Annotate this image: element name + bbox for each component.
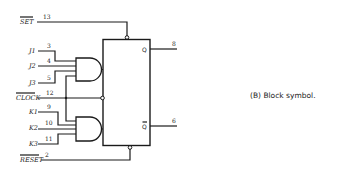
set-inversion-bubble-icon bbox=[125, 36, 129, 40]
k3-input: K3 11 bbox=[28, 134, 76, 148]
clock-pin-number: 12 bbox=[46, 89, 54, 96]
j1-wire bbox=[38, 51, 76, 61]
j2-label: J2 bbox=[27, 62, 36, 70]
k1-pin-number: 9 bbox=[47, 103, 51, 110]
k1-label: K1 bbox=[28, 108, 38, 116]
clock-inversion-bubble-icon bbox=[101, 96, 105, 100]
j2-input: J2 4 bbox=[27, 57, 76, 70]
q-label: Q bbox=[142, 46, 147, 53]
j1-label: J1 bbox=[27, 47, 36, 55]
k1-wire bbox=[38, 112, 76, 125]
j2-pin-number: 4 bbox=[47, 57, 51, 64]
q-pin-number: 8 bbox=[172, 40, 176, 47]
clock-input: CLOCK 12 bbox=[16, 89, 104, 102]
k2-label: K2 bbox=[28, 124, 38, 132]
k3-pin-number: 11 bbox=[45, 135, 53, 142]
reset-label: RESET bbox=[19, 156, 44, 164]
j1-pin-number: 3 bbox=[47, 42, 51, 49]
and-gate-k-icon bbox=[76, 117, 102, 141]
reset-pin-number: 2 bbox=[45, 151, 49, 158]
set-pin-number: 13 bbox=[43, 13, 51, 20]
jk-flip-flop-diagram: SET 13 Q 8 Q 6 J1 3 J2 4 J3 5 bbox=[0, 0, 339, 176]
j3-wire bbox=[38, 71, 76, 83]
clock-junction-dot bbox=[65, 97, 67, 99]
k2-pin-number: 10 bbox=[45, 119, 53, 126]
figure-caption: (B) Block symbol. bbox=[250, 91, 316, 100]
reset-wire bbox=[41, 149, 130, 160]
q-bar-pin-number: 6 bbox=[172, 117, 176, 124]
j1-input: J1 3 bbox=[27, 42, 76, 61]
j3-pin-number: 5 bbox=[47, 74, 51, 81]
reset-inversion-bubble-icon bbox=[128, 146, 132, 150]
k3-label: K3 bbox=[28, 140, 38, 148]
j3-label: J3 bbox=[27, 79, 36, 87]
set-label: SET bbox=[20, 18, 34, 26]
k3-wire bbox=[38, 134, 76, 144]
set-wire bbox=[37, 22, 127, 36]
reset-input: RESET 2 bbox=[19, 146, 132, 164]
and-gate-j-icon bbox=[76, 58, 102, 81]
q-bar-label: Q bbox=[142, 123, 147, 130]
clock-label: CLOCK bbox=[16, 94, 42, 102]
j3-input: J3 5 bbox=[27, 71, 76, 87]
set-input: SET 13 bbox=[20, 13, 129, 39]
